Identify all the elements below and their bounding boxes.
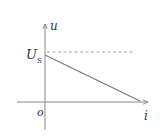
us-label-subscript: S (37, 57, 42, 65)
i-axis-label: i (144, 110, 148, 122)
u-i-diagram: u US o i (0, 0, 162, 137)
characteristic-line (45, 55, 140, 101)
diagram-canvas (0, 0, 162, 137)
u-axis-label: u (50, 20, 58, 32)
us-label-main: U (26, 47, 37, 62)
us-label: US (26, 48, 42, 65)
origin-label: o (37, 107, 44, 118)
